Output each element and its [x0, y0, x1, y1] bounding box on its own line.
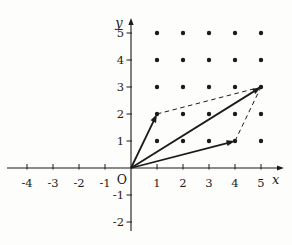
vector-to-4-1	[131, 142, 231, 168]
lattice-point	[155, 139, 159, 143]
x-axis-label: x	[272, 172, 280, 187]
lattice-point	[259, 31, 263, 35]
lattice-point	[233, 31, 237, 35]
lattice-point	[207, 31, 211, 35]
x-tick-label: -4	[21, 176, 32, 190]
vector-addition-diagram: -4-3-2-112345-2-112345 y x O	[0, 0, 292, 245]
lattice-point	[181, 112, 185, 116]
x-tick-label: 5	[257, 176, 264, 190]
lattice-point	[259, 112, 263, 116]
x-tick-label: 3	[205, 176, 212, 190]
lattice-point	[181, 139, 185, 143]
lattice-point	[233, 58, 237, 62]
lattice-point	[155, 85, 159, 89]
x-axis-arrowhead	[277, 165, 284, 170]
lattice-point	[259, 58, 263, 62]
lattice-point	[207, 58, 211, 62]
vector-to-1-2-arrowhead	[151, 114, 157, 123]
lattice-point	[259, 139, 263, 143]
vector-to-4-1-arrowhead	[226, 140, 235, 146]
lattice-point	[207, 112, 211, 116]
origin-label: O	[117, 172, 127, 187]
lattice-point	[155, 58, 159, 62]
vectors-layer	[131, 87, 261, 168]
y-tick-label: 2	[117, 107, 124, 121]
x-tick-label: 1	[153, 176, 160, 190]
lattice-point	[155, 31, 159, 35]
axis-labels-layer: y x O	[114, 15, 280, 187]
y-tick-label: -2	[113, 215, 124, 229]
y-tick-label: 4	[117, 53, 124, 67]
x-tick-label: 2	[179, 176, 186, 190]
y-tick-label: 1	[117, 134, 124, 148]
y-axis-label: y	[114, 15, 123, 30]
figure-page: -4-3-2-112345-2-112345 y x O	[0, 0, 292, 245]
x-tick-label: -3	[47, 176, 58, 190]
y-axis-arrowhead	[128, 18, 133, 25]
parallelogram-edge-top	[157, 87, 261, 114]
y-tick-label: 3	[117, 80, 124, 94]
x-tick-label: -2	[73, 176, 84, 190]
lattice-point	[181, 58, 185, 62]
ticks-layer: -4-3-2-112345-2-112345	[21, 26, 264, 229]
lattice-point	[207, 139, 211, 143]
lattice-point	[207, 85, 211, 89]
x-tick-label: 4	[231, 176, 238, 190]
y-tick-label: -1	[113, 188, 124, 202]
x-tick-label: -1	[99, 176, 110, 190]
lattice-point	[181, 85, 185, 89]
lattice-dots-layer	[155, 31, 263, 143]
lattice-point	[233, 112, 237, 116]
lattice-point	[181, 31, 185, 35]
lattice-point	[233, 85, 237, 89]
